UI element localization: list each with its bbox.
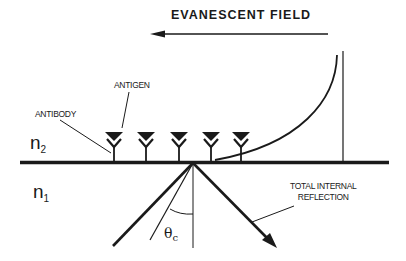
antigen-leader-line — [122, 92, 129, 128]
tir-label-line1: TOTAL INTERNAL — [290, 181, 357, 192]
critical-angle-arc — [170, 209, 193, 214]
n2-symbol: n — [30, 132, 41, 153]
antibody-label: ANTIBODY — [35, 109, 76, 119]
reflected-ray — [193, 163, 277, 248]
antibody-leader-line — [60, 120, 111, 153]
refractive-index-n2: n2 — [30, 132, 46, 155]
tir-leader-line — [252, 206, 294, 222]
theta-subscript: c — [172, 232, 178, 243]
tir-label: TOTAL INTERNAL REFLECTION — [290, 181, 357, 203]
n2-subscript: 2 — [41, 144, 47, 155]
antigen-label: ANTIGEN — [114, 80, 150, 90]
diagram-title: EVANESCENT FIELD — [171, 8, 311, 22]
evanescent-decay-curve — [215, 55, 337, 160]
antibody-icon — [137, 132, 155, 161]
tir-diagram — [0, 0, 406, 261]
antibody-icon — [202, 132, 220, 161]
n1-subscript: 1 — [44, 193, 50, 204]
antibody-icon — [105, 132, 123, 161]
n1-symbol: n — [33, 181, 44, 202]
critical-angle-label: θc — [164, 225, 178, 243]
refractive-index-n1: n1 — [33, 181, 49, 204]
tir-label-line2: REFLECTION — [290, 192, 357, 203]
antibody-icon — [170, 132, 188, 161]
evanescent-field-arrow — [150, 31, 328, 38]
